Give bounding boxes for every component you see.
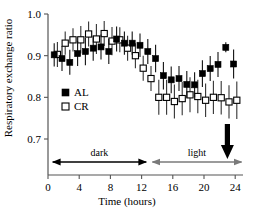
data-point-cr <box>62 40 68 46</box>
x-tick-label: 24 <box>230 181 242 193</box>
data-point-cr <box>148 75 154 81</box>
data-point-cr <box>179 95 185 101</box>
data-point-al <box>176 76 182 82</box>
light-phase-label: light <box>188 147 207 158</box>
data-point-al <box>199 71 205 77</box>
data-point-cr <box>156 94 162 100</box>
data-point-al <box>192 82 198 88</box>
data-point-al <box>82 49 88 55</box>
data-point-cr <box>132 53 138 59</box>
y-tick-label: 0.7 <box>27 133 41 145</box>
data-point-cr <box>70 37 76 43</box>
data-point-cr <box>218 95 224 101</box>
data-point-al <box>160 73 166 79</box>
data-point-cr <box>171 98 177 104</box>
legend-label-cr: CR <box>74 100 89 112</box>
legend-marker-cr <box>62 103 69 110</box>
y-axis-title: Respiratory exchange ratio <box>2 18 14 137</box>
data-point-al <box>106 49 112 55</box>
feeding-arrow-icon <box>221 124 234 159</box>
data-point-al <box>223 44 229 50</box>
data-point-al <box>67 59 73 65</box>
legend-label-al: AL <box>74 86 89 98</box>
data-point-al <box>207 66 213 72</box>
chart-figure: 0.70.80.91.004812162024Time (hours)Respi… <box>0 0 254 210</box>
data-point-al <box>59 56 65 62</box>
dark-phase-label: dark <box>91 147 109 158</box>
data-point-cr <box>78 37 84 43</box>
x-tick-label: 12 <box>136 181 147 193</box>
data-point-al <box>90 45 96 51</box>
data-point-al <box>153 56 159 62</box>
data-point-al <box>168 77 174 83</box>
data-point-cr <box>226 99 232 105</box>
y-tick-label: 1.0 <box>27 8 41 20</box>
data-point-cr <box>86 31 92 37</box>
chart-canvas: 0.70.80.91.004812162024Time (hours)Respi… <box>0 0 254 210</box>
x-tick-label: 8 <box>108 181 114 193</box>
data-point-cr <box>203 97 209 103</box>
data-point-al <box>75 51 81 57</box>
x-tick-label: 0 <box>45 181 51 193</box>
data-point-cr <box>93 36 99 42</box>
data-point-al <box>129 40 135 46</box>
x-tick-label: 16 <box>167 181 179 193</box>
data-point-cr <box>210 94 216 100</box>
data-point-al <box>184 81 190 87</box>
data-point-cr <box>234 97 240 103</box>
y-tick-label: 0.9 <box>27 50 41 62</box>
data-point-al <box>114 36 120 42</box>
data-point-al <box>145 49 151 55</box>
data-point-al <box>121 40 127 46</box>
data-point-al <box>98 44 104 50</box>
data-point-cr <box>195 93 201 99</box>
data-point-cr <box>140 65 146 71</box>
data-point-al <box>231 61 237 67</box>
data-point-cr <box>187 92 193 98</box>
data-point-cr <box>101 30 107 36</box>
legend-marker-al <box>62 89 69 96</box>
data-point-al <box>51 52 57 58</box>
x-axis-title: Time (hours) <box>98 195 156 208</box>
y-tick-label: 0.8 <box>27 91 41 103</box>
x-tick-label: 20 <box>199 181 211 193</box>
data-point-al <box>215 61 221 67</box>
x-tick-label: 4 <box>76 181 82 193</box>
data-point-al <box>137 42 143 48</box>
data-point-cr <box>164 94 170 100</box>
